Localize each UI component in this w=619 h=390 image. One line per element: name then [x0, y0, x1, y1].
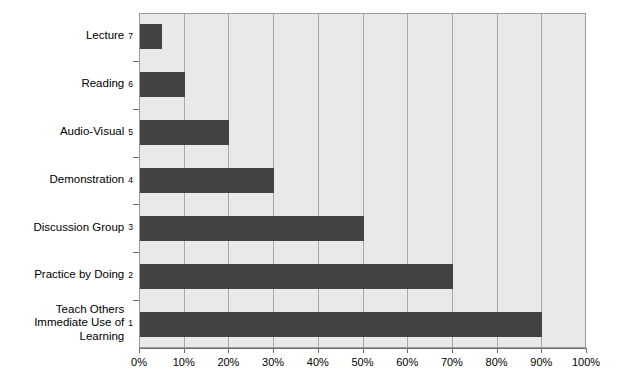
y-axis-tick: [133, 61, 139, 62]
x-axis-tick: [228, 348, 229, 353]
category-label-row: Discussion Group3: [0, 221, 133, 235]
gridline: [497, 14, 498, 347]
category-label-row: Lecture7: [0, 29, 133, 43]
bar: [140, 312, 542, 337]
y-axis-tick: [133, 204, 139, 205]
bar-chart: Teach Others Immediate Use of Learning1P…: [0, 0, 619, 390]
x-axis-tick-label: 50%: [351, 356, 373, 368]
category-label: Lecture: [86, 29, 124, 43]
x-axis-tick-label: 60%: [396, 356, 418, 368]
x-axis-tick-label: 100%: [572, 356, 600, 368]
category-rank-label: 1: [128, 318, 133, 328]
bar: [140, 72, 185, 97]
x-axis-tick-label: 70%: [441, 356, 463, 368]
category-label: Demonstration: [49, 173, 124, 187]
x-axis-tick-label: 90%: [530, 356, 552, 368]
bar: [140, 264, 453, 289]
y-axis-tick: [133, 252, 139, 253]
x-axis-tick: [407, 348, 408, 353]
gridline: [363, 14, 364, 347]
category-rank-label: 4: [128, 175, 133, 185]
x-axis-tick: [273, 348, 274, 353]
plot-area: [139, 13, 586, 348]
bar: [140, 120, 229, 145]
category-label-row: Practice by Doing2: [0, 268, 133, 282]
category-label: Audio-Visual: [60, 125, 124, 139]
category-label-row: Teach Others Immediate Use of Learning1: [0, 303, 133, 344]
category-label: Reading: [81, 77, 124, 91]
y-axis-tick: [133, 109, 139, 110]
x-axis-tick: [497, 348, 498, 353]
y-axis-tick: [133, 300, 139, 301]
gridline: [407, 14, 408, 347]
category-label-row: Reading6: [0, 77, 133, 91]
x-axis-tick-label: 40%: [307, 356, 329, 368]
bar: [140, 24, 162, 49]
x-axis-tick-label: 20%: [217, 356, 239, 368]
x-axis-tick: [586, 348, 587, 353]
y-axis-tick: [133, 157, 139, 158]
category-label-row: Demonstration4: [0, 173, 133, 187]
bar: [140, 216, 364, 241]
category-rank-label: 7: [128, 31, 133, 41]
x-axis-tick: [452, 348, 453, 353]
category-label: Discussion Group: [34, 221, 125, 235]
category-label: Practice by Doing: [34, 268, 124, 282]
x-axis-tick: [318, 348, 319, 353]
x-axis-tick-label: 30%: [262, 356, 284, 368]
x-axis-tick: [139, 348, 140, 353]
x-axis-tick-label: 80%: [486, 356, 508, 368]
x-axis-tick: [541, 348, 542, 353]
bar: [140, 168, 274, 193]
category-rank-label: 6: [128, 79, 133, 89]
category-label-row: Audio-Visual5: [0, 125, 133, 139]
x-axis-tick-label: 10%: [173, 356, 195, 368]
category-rank-label: 2: [128, 270, 133, 280]
category-rank-label: 3: [128, 222, 133, 232]
gridline: [541, 14, 542, 347]
x-axis-tick-label: 0%: [131, 356, 147, 368]
category-label: Teach Others Immediate Use of Learning: [34, 303, 124, 344]
category-rank-label: 5: [128, 127, 133, 137]
gridline: [318, 14, 319, 347]
category-axis: Teach Others Immediate Use of Learning1P…: [0, 13, 133, 348]
x-axis-tick: [363, 348, 364, 353]
x-axis-tick: [184, 348, 185, 353]
gridline: [452, 14, 453, 347]
